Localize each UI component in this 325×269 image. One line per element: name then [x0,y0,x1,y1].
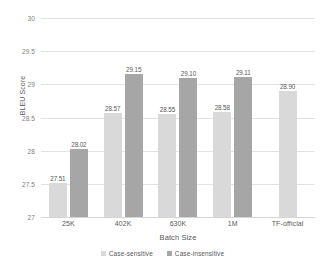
y-axis-title: BLEU Score [19,66,26,126]
bar-case-insensitive[interactable]: 28.02 [70,149,88,217]
bar-case-insensitive[interactable]: 29.10 [179,78,197,217]
bar-case-sensitive[interactable]: 28.55 [158,114,176,217]
bar-value-label: 29.10 [181,70,196,77]
bar-value-label: 27.51 [50,175,65,182]
bar-value-label: 28.57 [105,105,120,112]
legend-label: Case-insensitive [175,250,224,257]
legend-label: Case-sensitive [109,250,153,257]
y-axis-tick-label: 27 [28,214,35,221]
bar-group: 27.5128.02 [41,18,96,217]
legend-item[interactable]: Case-insensitive [167,250,224,257]
plot-area: 27.5128.0228.5729.1528.5529.1028.5829.11… [41,18,315,217]
bar-case-insensitive[interactable]: 29.15 [125,74,143,217]
bleu-score-bar-chart: 2727.52828.52929.530 BLEU Score 27.5128.… [0,0,325,269]
x-axis-title: Batch Size [41,233,315,242]
bar-case-sensitive[interactable]: 28.57 [104,113,122,217]
bar-group: 28.5729.15 [96,18,151,217]
bar-value-label: 28.02 [71,141,86,148]
bar-case-sensitive[interactable]: 27.51 [49,183,67,217]
chart-legend: Case-sensitiveCase-insensitive [0,250,325,257]
y-axis-tick-label: 29 [28,81,35,88]
bar-case-sensitive[interactable]: 28.90 [279,91,297,217]
x-axis-tick-label: 630K [170,220,187,227]
bar-group: 28.5529.10 [151,18,206,217]
x-axis-tick-label: 25K [62,220,75,227]
bar-value-label: 28.90 [280,83,295,90]
x-axis-tick-label: 1M [228,220,238,227]
gridline [41,217,315,218]
bar-value-label: 29.15 [126,66,141,73]
x-axis-tick-labels: 25K402K630K1MTF-official [41,220,315,232]
y-axis-tick-label: 29.5 [22,48,35,55]
bar-value-label: 28.58 [215,104,230,111]
bar-group: 28.5829.11 [205,18,260,217]
legend-swatch-icon [167,251,172,256]
legend-swatch-icon [101,251,106,256]
legend-item[interactable]: Case-sensitive [101,250,153,257]
bar-value-label: 29.11 [236,69,251,76]
x-axis-tick-label: 402K [115,220,132,227]
bar-case-sensitive[interactable]: 28.58 [213,112,231,217]
bar-group: 28.90 [260,18,315,217]
y-axis-tick-label: 30 [28,15,35,22]
y-axis-tick-label: 27.5 [22,180,35,187]
x-axis-tick-label: TF-official [272,220,304,227]
bar-case-insensitive[interactable]: 29.11 [234,77,252,217]
bar-value-label: 28.55 [160,106,175,113]
y-axis-tick-label: 28 [28,147,35,154]
